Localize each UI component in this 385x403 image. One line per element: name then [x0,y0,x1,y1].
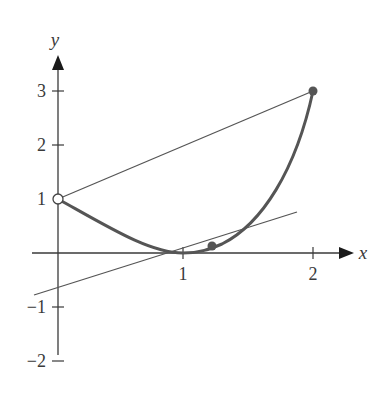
tangency-point [208,242,217,251]
tick-label-y1: 1 [37,189,46,209]
y-axis-arrow-icon [52,55,64,70]
tick-label-ym2: −2 [27,351,46,371]
graph-figure: y x 1 2 3 2 1 −1 −2 [0,0,385,403]
end-point [309,87,318,96]
tick-label-y2: 2 [37,135,46,155]
x-axis-label: x [358,242,368,263]
tick-label-x1: 1 [179,264,188,284]
tick-label-x2: 2 [309,264,318,284]
tick-label-y3: 3 [37,81,46,101]
secant-line [58,91,313,199]
function-curve [58,91,313,253]
tick-label-ym1: −1 [27,297,46,317]
y-axis-label: y [49,29,60,50]
open-point-start [53,194,63,204]
x-axis-arrow-icon [339,247,354,259]
